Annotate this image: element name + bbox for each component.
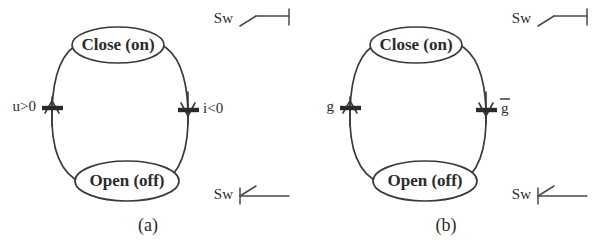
panel-a-right-arc: [160, 44, 188, 184]
switch-closed-icon: [538, 186, 587, 204]
panel-b-right-transition-marker: [476, 92, 497, 124]
panel-b-left-arc: [350, 43, 380, 183]
switch-closed-icon: [240, 186, 289, 204]
panel-b-switch-top-label: Sw: [512, 10, 531, 26]
panel-b: Close (on) Open (off) g g Sw: [327, 9, 588, 236]
panel-a-right-transition-marker: [178, 92, 199, 124]
figure-root: Close (on) Open (off) u>0 i<0 Sw: [0, 0, 599, 251]
panel-b-switch-top: Sw: [512, 9, 587, 26]
panel-b-right-guard-label: g: [501, 100, 509, 116]
panel-a-switch-bottom: Sw: [214, 186, 289, 204]
panel-a-right-guard-label: i<0: [203, 100, 223, 116]
panel-b-left-guard-label: g: [327, 98, 335, 114]
panel-a-switch-bottom-label: Sw: [214, 186, 233, 202]
state-transition-figure: Close (on) Open (off) u>0 i<0 Sw: [0, 0, 599, 251]
panel-a-left-guard-label: u>0: [13, 98, 36, 114]
panel-a: Close (on) Open (off) u>0 i<0 Sw: [13, 9, 289, 236]
panel-a-state-close-on-label: Close (on): [81, 35, 154, 54]
panel-a-switch-top-label: Sw: [214, 10, 233, 26]
switch-open-icon: [538, 9, 587, 26]
panel-b-state-close-on-label: Close (on): [379, 35, 452, 54]
panel-b-caption: (b): [436, 215, 457, 236]
panel-a-state-open-off-label: Open (off): [89, 171, 164, 190]
panel-a-caption: (a): [138, 215, 158, 236]
panel-a-switch-top: Sw: [214, 9, 289, 26]
panel-b-state-open-off-label: Open (off): [387, 171, 462, 190]
panel-b-right-arc: [458, 44, 486, 184]
panel-a-left-arc: [52, 43, 82, 183]
switch-open-icon: [240, 9, 289, 26]
panel-b-switch-bottom-label: Sw: [512, 186, 531, 202]
panel-b-switch-bottom: Sw: [512, 186, 587, 204]
panel-a-left-transition-marker: [42, 97, 63, 126]
panel-b-left-transition-marker: [340, 97, 361, 126]
